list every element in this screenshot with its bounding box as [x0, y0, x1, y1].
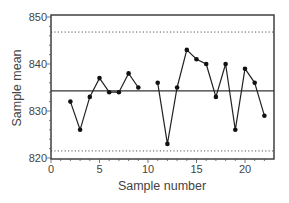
data-point-marker	[97, 76, 102, 81]
y-tick-label: 820	[29, 152, 47, 164]
data-point-marker	[107, 90, 112, 95]
y-tick-label: 830	[29, 105, 47, 117]
y-tick-label: 840	[29, 58, 47, 70]
data-point-marker	[155, 81, 160, 86]
data-series	[68, 48, 267, 147]
series-line	[158, 50, 265, 144]
y-axis-title: Sample mean	[10, 49, 24, 126]
x-tick-label: 15	[190, 163, 202, 175]
plot-frame	[51, 15, 274, 159]
axes	[47, 15, 274, 163]
data-point-marker	[165, 142, 170, 147]
y-tick-label: 850	[29, 11, 47, 23]
data-point-marker	[78, 128, 83, 133]
data-point-marker	[68, 99, 73, 104]
series-line	[70, 73, 138, 129]
data-point-marker	[185, 48, 190, 53]
x-tick-label: 5	[96, 163, 102, 175]
data-point-marker	[175, 85, 180, 90]
data-point-marker	[194, 57, 199, 62]
x-axis-ticks: 0 5 10 15 20	[48, 163, 251, 175]
control-chart: 820 830 840 850 0 5 10 15 20 Sample numb…	[0, 0, 289, 203]
data-point-marker	[136, 85, 141, 90]
data-point-marker	[214, 95, 219, 100]
data-point-marker	[117, 90, 122, 95]
x-tick-label: 20	[239, 163, 251, 175]
data-point-marker	[223, 62, 228, 67]
data-point-marker	[126, 71, 131, 76]
data-point-marker	[243, 66, 248, 71]
x-tick-label: 10	[142, 163, 154, 175]
x-axis-title: Sample number	[118, 179, 206, 193]
control-limit-lines	[51, 32, 274, 151]
y-axis-ticks: 820 830 840 850	[29, 11, 47, 164]
data-point-marker	[252, 81, 257, 86]
data-point-marker	[233, 128, 238, 133]
data-point-marker	[88, 95, 93, 100]
x-tick-label: 0	[48, 163, 54, 175]
data-point-marker	[204, 62, 209, 67]
data-point-marker	[262, 113, 267, 118]
